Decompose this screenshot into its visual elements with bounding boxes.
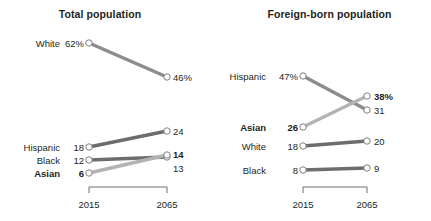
slope-line-white xyxy=(89,43,167,77)
slope-line-black xyxy=(303,168,367,170)
value-asian-2015: 6 xyxy=(36,169,84,179)
panel-total-population: Total population White Hispanic Black A xyxy=(0,0,216,221)
axis-tick-2065: 2065 xyxy=(145,199,189,210)
panel-foreign-born-population: Foreign-born population Hispanic Asian W… xyxy=(216,0,431,221)
axis-tick-2015: 2015 xyxy=(281,199,325,210)
axis-bracket xyxy=(303,187,367,193)
slope-line-hispanic xyxy=(303,76,367,110)
slope-line-asian xyxy=(303,96,367,127)
value-white-2065: 46% xyxy=(173,73,192,83)
axis-tick-2065: 2065 xyxy=(345,199,389,210)
marker-white-2015 xyxy=(86,40,92,46)
value-asian-2065: 38% xyxy=(374,92,393,102)
value-black-2015: 12 xyxy=(36,156,84,166)
marker-hispanic-2065 xyxy=(364,107,370,113)
marker-black-2065 xyxy=(364,165,370,171)
value-white-2015: 18 xyxy=(250,142,298,152)
marker-black-2015 xyxy=(86,157,92,163)
value-hispanic-2015: 47% xyxy=(250,72,298,82)
axis-tick-2015: 2015 xyxy=(67,199,111,210)
marker-white-2015 xyxy=(300,143,306,149)
value-asian-2015: 26 xyxy=(250,123,298,133)
value-hispanic-2065: 24 xyxy=(173,127,184,137)
marker-hispanic-2015 xyxy=(86,144,92,150)
marker-white-2065 xyxy=(364,138,370,144)
value-black-2065: 13 xyxy=(173,164,184,174)
value-asian-2065: 14 xyxy=(173,150,184,160)
marker-white-2065 xyxy=(164,74,170,80)
slopegraph-figure: Total population White Hispanic Black A xyxy=(0,0,431,221)
value-black-2065: 9 xyxy=(374,164,379,174)
value-hispanic-2015: 18 xyxy=(36,143,84,153)
marker-hispanic-2065 xyxy=(164,128,170,134)
marker-asian-2065 xyxy=(164,152,170,158)
slope-line-hispanic xyxy=(89,131,167,147)
axis-bracket xyxy=(89,187,167,193)
marker-asian-2015 xyxy=(300,124,306,130)
marker-asian-2065 xyxy=(364,93,370,99)
value-black-2015: 8 xyxy=(250,166,298,176)
marker-black-2015 xyxy=(300,167,306,173)
value-hispanic-2065: 31 xyxy=(374,106,385,116)
value-white-2015: 62% xyxy=(36,39,84,49)
marker-hispanic-2015 xyxy=(300,73,306,79)
plot-foreign-born-population xyxy=(216,0,431,221)
slope-line-white xyxy=(303,141,367,146)
plot-total-population xyxy=(0,0,216,221)
value-white-2065: 20 xyxy=(374,137,385,147)
marker-asian-2015 xyxy=(86,170,92,176)
